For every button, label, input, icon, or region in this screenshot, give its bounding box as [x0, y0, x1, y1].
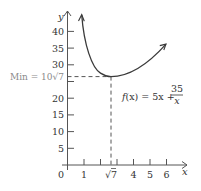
x-ticks [84, 159, 167, 165]
y-axis-label: y [57, 11, 64, 22]
y-tick-label-20: 20 [52, 93, 64, 104]
y-tick-label-35: 35 [52, 43, 64, 54]
origin-label: 0 [58, 169, 64, 180]
y-tick-label-5: 5 [58, 143, 64, 154]
function-numerator: 35 [171, 83, 183, 94]
function-label-prefix: (x) = 5x + [126, 91, 175, 102]
y-ticks [68, 31, 75, 148]
x-axis-label: x [182, 166, 188, 177]
x-tick-label-1: 1 [81, 169, 87, 180]
function-curve [82, 15, 166, 77]
y-tick-label-40: 40 [52, 26, 64, 37]
function-denominator: x [174, 95, 180, 106]
min-label: Min = 10√7 [10, 72, 64, 82]
x-tick-label-4: 4 [130, 169, 136, 180]
function-label: f(x) = 5x + [121, 91, 175, 102]
x-tick-label-5: 5 [147, 169, 153, 180]
y-tick-label-10: 10 [52, 126, 64, 137]
function-graph: 40 35 30 20 15 10 5 y x 0 1 √7 4 5 6 Min… [0, 0, 201, 191]
x-tick-label-6: 6 [163, 169, 169, 180]
y-tick-label-30: 30 [52, 59, 64, 70]
y-tick-label-15: 15 [52, 109, 64, 120]
x-tick-label-sqrt7: √7 [105, 169, 117, 180]
